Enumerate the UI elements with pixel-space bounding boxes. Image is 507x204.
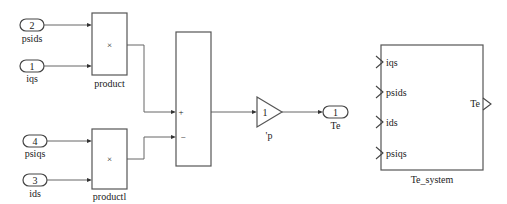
wire-productl-sum[interactable] <box>127 137 173 159</box>
minus-sign: − <box>180 132 185 142</box>
outport-number: 1 <box>333 107 338 118</box>
inport-label: psids <box>22 33 43 44</box>
inport-psiqs[interactable]: 4 psiqs <box>23 135 47 159</box>
inport-label: psiqs <box>25 148 46 159</box>
inport-number: 4 <box>33 136 38 147</box>
output-port-chevron-icon <box>483 98 491 110</box>
inport-ids[interactable]: 3 ids <box>23 174 47 199</box>
inport-label: ids <box>29 188 41 199</box>
subsystem-input-label: ids <box>386 117 398 128</box>
productl-block[interactable]: × productl <box>92 129 127 202</box>
inport-number: 2 <box>30 20 35 31</box>
subsystem-input-label: psiqs <box>386 148 407 159</box>
arrowhead <box>87 23 92 27</box>
arrowhead <box>87 139 92 143</box>
wire-product-sum[interactable] <box>127 45 173 112</box>
multiply-icon: × <box>107 154 112 164</box>
inport-number: 1 <box>30 61 35 72</box>
te-system-subsystem[interactable]: iqs psids ids psiqs Te Te_system <box>376 45 491 185</box>
arrowhead <box>87 178 92 182</box>
arrowhead <box>87 64 92 68</box>
arrowhead <box>318 110 323 114</box>
arrowhead <box>171 110 176 114</box>
simulink-diagram: 2 psids 1 iqs 4 psiqs 3 ids <box>0 0 507 204</box>
outport-label: Te <box>331 120 341 131</box>
arrowhead <box>171 135 176 139</box>
inport-label: iqs <box>26 73 38 84</box>
block-label: product <box>94 78 125 89</box>
inport-psids[interactable]: 2 psids <box>20 19 44 44</box>
sum-block[interactable]: + − <box>176 32 211 166</box>
gain-value: 1 <box>263 107 268 118</box>
subsystem-output-label: Te <box>470 98 480 109</box>
arrowhead <box>252 110 257 114</box>
gain-block[interactable]: 1 'p <box>257 97 282 141</box>
subsystem-input-label: iqs <box>386 57 398 68</box>
inport-number: 3 <box>33 175 38 186</box>
gain-annotation: 'p <box>266 130 273 141</box>
product-block[interactable]: × product <box>92 13 127 89</box>
subsystem-name: Te_system <box>411 174 454 185</box>
block-label: productl <box>93 191 127 202</box>
inport-iqs[interactable]: 1 iqs <box>20 60 44 84</box>
multiply-icon: × <box>107 40 112 50</box>
subsystem-input-label: psids <box>386 87 407 98</box>
outport-te[interactable]: 1 Te <box>323 106 348 131</box>
plus-sign: + <box>178 107 183 117</box>
